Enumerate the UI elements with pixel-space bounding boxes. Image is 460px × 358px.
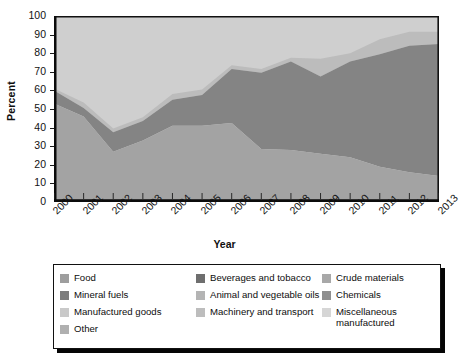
plot-area — [54, 16, 439, 202]
legend-label: Machinery and transport — [210, 306, 313, 317]
y-tick-label: 30 — [34, 140, 46, 150]
y-tick-label: 100 — [28, 10, 46, 20]
legend-item[interactable]: Miscellaneous manufactured — [322, 306, 404, 330]
legend-label: Manufactured goods — [74, 306, 161, 317]
y-tick-label: 70 — [34, 66, 46, 76]
y-tick-label: 10 — [34, 177, 46, 187]
legend-item[interactable]: Machinery and transport — [196, 306, 319, 320]
legend-item[interactable]: Other — [60, 323, 161, 337]
legend-swatch-icon — [322, 291, 331, 300]
chart-legend: FoodMineral fuelsManufactured goodsOther… — [53, 264, 441, 349]
legend-swatch-icon — [322, 308, 331, 317]
legend-swatch-icon — [196, 291, 205, 300]
legend-item[interactable]: Chemicals — [322, 289, 404, 303]
legend-swatch-icon — [60, 325, 69, 334]
y-tick-label: 90 — [34, 29, 46, 39]
legend-label: Chemicals — [336, 289, 381, 300]
y-tick-label: 80 — [34, 47, 46, 57]
legend-item[interactable]: Manufactured goods — [60, 306, 161, 320]
legend-column: Crude materialsChemicalsMiscellaneous ma… — [322, 272, 404, 333]
legend-label: Animal and vegetable oils — [210, 289, 319, 300]
legend-column: FoodMineral fuelsManufactured goodsOther — [60, 272, 161, 340]
legend-item[interactable]: Crude materials — [322, 272, 404, 286]
y-axis: Percent 1009080706050403020100 — [0, 0, 54, 220]
legend-label: Beverages and tobacco — [210, 272, 311, 283]
legend-swatch-icon — [196, 308, 205, 317]
legend-item[interactable]: Food — [60, 272, 161, 286]
legend-column: Beverages and tobaccoAnimal and vegetabl… — [196, 272, 319, 323]
legend-label: Food — [74, 272, 96, 283]
stacked-area-chart — [54, 16, 439, 202]
legend-swatch-icon — [60, 308, 69, 317]
y-tick-label: 0 — [40, 196, 46, 206]
legend-swatch-icon — [322, 274, 331, 283]
legend-swatch-icon — [60, 274, 69, 283]
legend-item[interactable]: Animal and vegetable oils — [196, 289, 319, 303]
y-tick-label: 60 — [34, 84, 46, 94]
legend-label: Mineral fuels — [74, 289, 128, 300]
x-axis-title: Year — [0, 238, 449, 250]
y-tick-label: 20 — [34, 159, 46, 169]
y-tick-label: 40 — [34, 122, 46, 132]
legend-item[interactable]: Beverages and tobacco — [196, 272, 319, 286]
y-axis-title: Percent — [5, 81, 17, 121]
legend-label: Crude materials — [336, 272, 404, 283]
legend-label: Other — [74, 323, 98, 334]
legend-item[interactable]: Mineral fuels — [60, 289, 161, 303]
legend-swatch-icon — [60, 291, 69, 300]
y-tick-label: 50 — [34, 103, 46, 113]
legend-label: Miscellaneous manufactured — [336, 306, 397, 328]
legend-swatch-icon — [196, 274, 205, 283]
